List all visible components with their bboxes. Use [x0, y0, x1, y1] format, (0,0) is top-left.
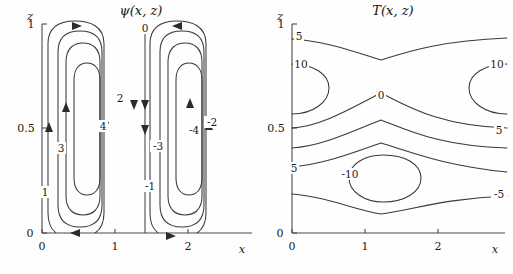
- contour-figure: 0 0.5 1 0 1 2 x z ψ(x, z) 0 1 2 3 4: [0, 0, 513, 274]
- contour-label-T-5-topleft: 5: [296, 30, 303, 42]
- arrow-separatrix-upper: [141, 100, 149, 110]
- x-tick-label-0-T: 0: [289, 240, 296, 253]
- arrow-left-inner-west: [62, 102, 70, 112]
- panel-title-streamfunction: ψ(x, z): [120, 3, 163, 18]
- x-tick-label-2: 2: [185, 240, 192, 253]
- contour-label-1: 1: [42, 186, 49, 198]
- x-tick-label-1: 1: [112, 240, 119, 253]
- contour-T-5-mid: [292, 120, 507, 148]
- x-tick-label-2-T: 2: [435, 240, 442, 253]
- x-axis-label: x: [239, 242, 246, 256]
- axes-temperature: [292, 24, 505, 233]
- contour-label-T-0-mid: 0: [378, 89, 385, 101]
- x-tick-label-1-T: 1: [362, 240, 369, 253]
- contour-labels-temperature: 5 10 10 0 5 5 -10 -5: [289, 30, 507, 200]
- contour-label-4: 4: [100, 120, 107, 132]
- arrow-left-outer-east: [130, 100, 138, 110]
- contour-level-3: [66, 43, 100, 215]
- y-tick-label-05-T: 0.5: [267, 122, 285, 135]
- arrow-left-top: [72, 22, 82, 30]
- contour-T-0-mid: [292, 93, 507, 128]
- contour-label-T-neg5: -5: [494, 188, 504, 200]
- contours-left-cell: [48, 21, 104, 238]
- contour-label-2: 2: [117, 92, 124, 104]
- contour-T-band-lower: [292, 143, 507, 172]
- arrow-left-west: [45, 122, 53, 132]
- contours-temperature: [292, 38, 507, 214]
- x-axis-label-T: x: [492, 242, 499, 256]
- panel-temperature: 0 0.5 1 0 1 2 x z T(x, z) 5 10 10 0 5: [255, 0, 513, 274]
- contour-label-T-10-right: 10: [490, 58, 503, 70]
- contour-label-neg1: -1: [145, 180, 155, 192]
- contour-level-1: [48, 21, 104, 238]
- y-axis-label: z: [26, 9, 34, 23]
- contour-label-T-5-left: 5: [291, 162, 298, 174]
- arrow-right-top: [172, 22, 182, 30]
- contour-T-neg5-lower: [292, 194, 507, 214]
- temperature-plot: 0 0.5 1 0 1 2 x z T(x, z) 5 10 10 0 5: [255, 0, 513, 274]
- arrow-left-bottom: [70, 229, 80, 237]
- contour-label-3: 3: [58, 142, 65, 154]
- y-axis-label-T: z: [276, 9, 284, 23]
- contour-label-T-5-right: 5: [496, 124, 503, 136]
- contour-label-neg2: -2: [207, 116, 217, 128]
- contour-label-neg3: -3: [153, 140, 163, 152]
- contour-T-5-upper: [292, 38, 507, 60]
- arrow-separatrix-lower: [141, 125, 149, 135]
- contour-T-10-left-lobe: [292, 64, 329, 114]
- contour-T-10-right-lobe: [469, 64, 507, 114]
- contour-level-2: [58, 31, 102, 227]
- panel-streamfunction: 0 0.5 1 0 1 2 x z ψ(x, z) 0 1 2 3 4: [0, 0, 258, 274]
- contour-label-0: 0: [142, 22, 149, 34]
- panel-title-temperature: T(x, z): [372, 3, 413, 18]
- contour-label-T-10-left: 10: [294, 58, 307, 70]
- y-tick-label-0-T: 0: [277, 227, 284, 240]
- x-tick-label-0: 0: [39, 240, 46, 253]
- contour-label-T-neg10: -10: [342, 168, 359, 180]
- contour-label-neg4: -4: [189, 124, 200, 136]
- contour-level-4: [74, 63, 100, 195]
- y-tick-label-05: 0.5: [17, 122, 35, 135]
- y-tick-label-0: 0: [27, 227, 34, 240]
- arrow-right-inner-east: [186, 98, 194, 108]
- streamfunction-plot: 0 0.5 1 0 1 2 x z ψ(x, z) 0 1 2 3 4: [0, 0, 258, 274]
